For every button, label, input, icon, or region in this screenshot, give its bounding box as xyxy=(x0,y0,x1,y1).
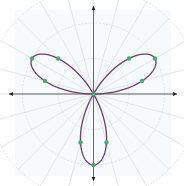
data-point xyxy=(91,92,95,96)
data-point xyxy=(104,140,108,144)
chart-canvas xyxy=(0,0,184,186)
y-axis-arrow-down-icon xyxy=(92,177,96,181)
polar-chart xyxy=(0,0,184,186)
data-point xyxy=(153,56,157,60)
data-point xyxy=(56,56,60,60)
x-axis-arrow-left-icon xyxy=(9,92,13,96)
data-point xyxy=(78,140,82,144)
data-point xyxy=(127,56,131,60)
x-axis-arrow-right-icon xyxy=(173,92,177,96)
data-point xyxy=(91,163,95,167)
y-axis-arrow-up-icon xyxy=(92,6,96,10)
data-point xyxy=(43,79,47,83)
data-point xyxy=(140,79,144,83)
data-point xyxy=(30,56,34,60)
